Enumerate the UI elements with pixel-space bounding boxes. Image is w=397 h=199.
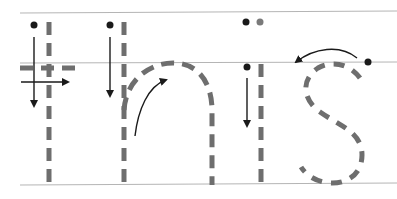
letter-t [20, 22, 82, 185]
letter-h [124, 22, 212, 185]
s-curve [301, 64, 362, 183]
arrow-s-curve [296, 49, 357, 62]
start-dot-i [244, 64, 251, 71]
arrow-h-arch [135, 80, 166, 136]
tracing-worksheet [0, 0, 397, 199]
i-dot-start [243, 19, 250, 26]
top-line [20, 11, 397, 13]
i-dot [257, 19, 264, 26]
letter-s [301, 64, 362, 183]
start-dot-h [107, 22, 114, 29]
start-dot-s [365, 59, 372, 66]
start-dot-t [31, 22, 38, 29]
